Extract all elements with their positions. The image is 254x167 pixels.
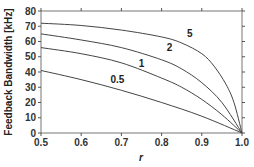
y-tick-label: 0 (30, 128, 36, 139)
plot-frame (41, 11, 242, 133)
y-tick-label: 60 (25, 36, 37, 47)
curves (41, 23, 242, 133)
y-axis-title: Feedback Bandwidth [kHz] (3, 8, 14, 135)
y-tick-label: 80 (25, 6, 37, 17)
curve-5 (41, 23, 242, 133)
x-tick-label: 0.5 (34, 137, 48, 148)
y-tick-label: 70 (25, 21, 37, 32)
x-tick-label: 0.8 (155, 137, 169, 148)
x-tick-label: 0.9 (195, 137, 209, 148)
y-tick-label: 10 (25, 112, 37, 123)
curve-2 (41, 34, 242, 133)
plot-border (41, 11, 242, 133)
curve-label: 2 (167, 42, 173, 53)
y-tick-label: 30 (25, 82, 37, 93)
curve-label: 0.5 (110, 74, 124, 85)
line-chart: 0.50.60.70.80.91.001020304050607080 5210… (0, 0, 254, 167)
x-axis-title: r (139, 152, 144, 163)
curve-label: 1 (139, 58, 145, 69)
x-tick-label: 0.7 (114, 137, 128, 148)
x-tick-label: 1.0 (235, 137, 249, 148)
x-tick-label: 0.6 (74, 137, 88, 148)
axis-ticks: 0.50.60.70.80.91.001020304050607080 (25, 6, 250, 149)
curve-0.5 (41, 70, 242, 133)
y-tick-label: 50 (25, 51, 37, 62)
y-tick-label: 20 (25, 97, 37, 108)
curve-label: 5 (187, 28, 193, 39)
y-tick-label: 40 (25, 67, 37, 78)
